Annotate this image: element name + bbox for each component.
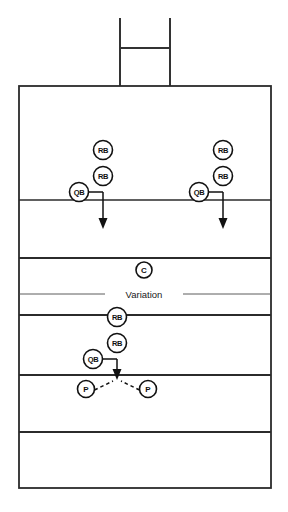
goal-post-icon [120, 18, 170, 86]
marker-p-right[interactable]: P [140, 381, 157, 398]
play-diagram-canvas: Variation RB [0, 0, 288, 512]
marker-rb-left-deep[interactable]: RB [94, 141, 113, 160]
football-play-diagram: Variation RB [0, 0, 288, 512]
marker-label: P [83, 385, 89, 394]
marker-rb-right-deep[interactable]: RB [214, 141, 233, 160]
marker-label: RB [218, 172, 229, 181]
route-variation [103, 359, 122, 380]
marker-p-left[interactable]: P [78, 381, 95, 398]
marker-rb-left-near[interactable]: RB [94, 167, 113, 186]
marker-label: RB [98, 146, 109, 155]
route-left-arrowhead [99, 218, 108, 229]
pitch-routes [95, 381, 140, 390]
marker-label: P [145, 385, 151, 394]
marker-qb-right[interactable]: QB [190, 183, 209, 202]
marker-label: C [141, 266, 147, 275]
marker-qb-variation[interactable]: QB [84, 350, 103, 369]
marker-label: RB [98, 172, 109, 181]
marker-rb-variation-deep[interactable]: RB [108, 308, 127, 327]
marker-c-center[interactable]: C [136, 262, 152, 278]
route-right-arrowhead [219, 218, 228, 229]
field-outline [19, 86, 271, 488]
pitch-route-left [95, 381, 114, 390]
marker-label: RB [112, 339, 123, 348]
pitch-route-right [121, 381, 140, 390]
variation-label: Variation [126, 289, 163, 300]
marker-label: QB [194, 188, 206, 197]
marker-qb-left[interactable]: QB [70, 183, 89, 202]
variation-divider: Variation [19, 289, 271, 300]
marker-rb-right-near[interactable]: RB [214, 167, 233, 186]
marker-label: RB [218, 146, 229, 155]
marker-label: QB [74, 188, 86, 197]
marker-rb-variation-near[interactable]: RB [108, 334, 127, 353]
route-left [89, 192, 108, 229]
marker-label: QB [88, 355, 100, 364]
marker-label: RB [112, 313, 123, 322]
route-right [209, 192, 228, 229]
